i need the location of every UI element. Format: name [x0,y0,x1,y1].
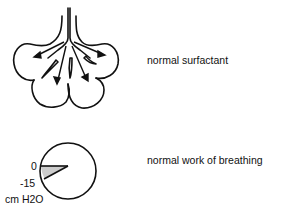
bronchus-left-wall [14,16,62,80]
caption-surfactant: normal surfactant [147,54,228,66]
alveolus-right-lower [68,78,104,108]
caption-work-of-breathing: normal work of breathing [147,154,263,166]
alveolus-left-lower [32,80,69,107]
unit-label: cm H2O [5,193,44,205]
alveoli-diagram [0,0,150,125]
tick-label-zero: 0 [31,160,37,172]
tick-label-minus15: -15 [20,177,35,189]
